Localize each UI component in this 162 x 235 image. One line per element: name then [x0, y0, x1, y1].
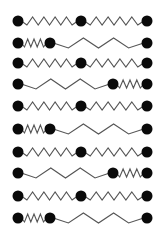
spring-chain-row	[13, 79, 153, 90]
spring-icon	[21, 148, 77, 156]
spring-icon	[53, 213, 143, 223]
mass-ball-icon	[142, 58, 153, 69]
spring-icon	[21, 214, 46, 222]
spring-chain-row	[13, 191, 153, 202]
mass-ball-icon	[45, 213, 56, 224]
mass-ball-icon	[13, 147, 24, 158]
spring-chain-row	[13, 58, 153, 69]
spring-chain-row	[13, 124, 153, 135]
mass-ball-icon	[76, 147, 87, 158]
spring-chain-row	[13, 16, 153, 27]
mass-ball-icon	[108, 168, 119, 179]
mass-ball-icon	[76, 191, 87, 202]
spring-icon	[21, 168, 109, 178]
spring-icon	[21, 17, 77, 25]
spring-icon	[21, 79, 109, 89]
spring-chain-row	[13, 213, 153, 224]
mass-ball-icon	[142, 101, 153, 112]
mass-ball-icon	[142, 213, 153, 224]
mass-ball-icon	[142, 38, 153, 49]
spring-chain-row	[13, 147, 153, 158]
mass-ball-icon	[13, 191, 24, 202]
mass-ball-icon	[13, 16, 24, 27]
spring-icon	[84, 17, 143, 25]
mass-ball-icon	[108, 79, 119, 90]
mass-ball-icon	[142, 191, 153, 202]
spring-icon	[84, 148, 143, 156]
mass-ball-icon	[13, 58, 24, 69]
mass-ball-icon	[76, 16, 87, 27]
mass-ball-icon	[13, 38, 24, 49]
spring-icon	[21, 102, 77, 110]
spring-icon	[21, 59, 77, 67]
mass-ball-icon	[13, 124, 24, 135]
spring-icon	[21, 125, 46, 133]
mass-ball-icon	[45, 124, 56, 135]
spring-icon	[84, 102, 143, 110]
spring-icon	[53, 124, 143, 134]
spring-icon	[84, 192, 143, 200]
spring-icon	[21, 39, 46, 47]
spring-chain-diagram	[0, 0, 162, 235]
spring-chain-row	[13, 101, 153, 112]
spring-icon	[53, 38, 143, 48]
mass-ball-icon	[142, 124, 153, 135]
mass-ball-icon	[142, 168, 153, 179]
mass-ball-icon	[13, 101, 24, 112]
mass-ball-icon	[76, 58, 87, 69]
spring-icon	[84, 59, 143, 67]
spring-icon	[21, 192, 77, 200]
mass-ball-icon	[142, 147, 153, 158]
spring-icon	[116, 169, 143, 177]
mass-ball-icon	[13, 168, 24, 179]
mass-ball-icon	[142, 79, 153, 90]
spring-chain-row	[13, 168, 153, 179]
mass-ball-icon	[76, 101, 87, 112]
mass-ball-icon	[13, 213, 24, 224]
mass-ball-icon	[13, 79, 24, 90]
mass-ball-icon	[45, 38, 56, 49]
mass-ball-icon	[142, 16, 153, 27]
spring-icon	[116, 80, 143, 88]
spring-chain-row	[13, 38, 153, 49]
